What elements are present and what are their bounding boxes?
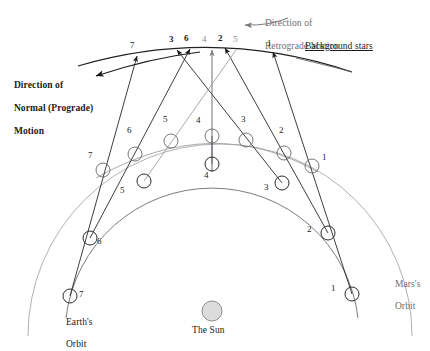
sight-line-5 — [144, 50, 236, 181]
mars-label-2: 2 — [279, 125, 284, 135]
sight-line-3 — [177, 50, 282, 183]
mars-label-4: 4 — [196, 115, 201, 125]
earths-orbit-line-1: Earth's — [66, 317, 93, 327]
earth-label-4: 4 — [204, 170, 209, 180]
prograde-direction-label: Direction of Normal (Prograde) Motion — [4, 68, 122, 149]
star-label-2: 2 — [218, 33, 223, 43]
earth-label-5: 5 — [120, 185, 125, 195]
mars-label-1: 1 — [322, 152, 327, 162]
earth-label-2: 2 — [307, 224, 312, 234]
prograde-line-1: Direction of — [14, 80, 63, 90]
mars-label-5: 5 — [163, 114, 168, 124]
retrograde-direction-label: Direction of Retrograde Motion — [255, 6, 375, 64]
earths-orbit-line-2: Orbit — [66, 339, 87, 349]
earths-orbit-label: Earth's Orbit — [56, 306, 116, 351]
star-label-3: 3 — [169, 34, 174, 44]
prograde-line-2: Normal (Prograde) — [14, 103, 93, 113]
mars-marker-5 — [164, 134, 178, 148]
background-stars-label: Background stars — [305, 41, 373, 53]
marss-orbit-label: Mars's Orbit — [385, 268, 430, 323]
mars-label-3: 3 — [241, 114, 246, 124]
star-label-7: 7 — [130, 40, 135, 50]
earth-label-7: 7 — [79, 289, 84, 299]
mars-label-6: 6 — [127, 125, 132, 135]
star-label-6: 6 — [184, 33, 189, 43]
retrograde-line-1: Direction of — [265, 18, 312, 28]
sun-marker — [202, 301, 222, 321]
star-label-5: 5 — [233, 34, 238, 44]
marss-orbit-line-1: Mars's — [395, 279, 421, 289]
star-label-4: 4 — [202, 34, 207, 44]
prograde-line-3: Motion — [14, 126, 44, 136]
mars-marker-3 — [239, 133, 253, 147]
mars-marker-7 — [96, 163, 110, 177]
marss-orbit-line-2: Orbit — [395, 301, 416, 311]
sight-line-2 — [225, 48, 328, 233]
mars-label-7: 7 — [88, 150, 93, 160]
earth-label-1: 1 — [331, 283, 336, 293]
the-sun-label: The Sun — [192, 325, 225, 337]
earth-label-3: 3 — [264, 182, 269, 192]
earth-label-6: 6 — [97, 236, 102, 246]
star-label-1: 1 — [267, 38, 272, 48]
